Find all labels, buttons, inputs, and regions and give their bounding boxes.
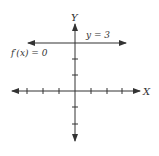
coordinate-plane: Y X y = 3 f′(x) = 0: [0, 0, 159, 156]
equation-label: y = 3: [85, 30, 110, 40]
y-axis-label: Y: [71, 12, 79, 23]
x-axis-label: X: [142, 86, 151, 97]
derivative-label: f′(x) = 0: [10, 48, 48, 58]
